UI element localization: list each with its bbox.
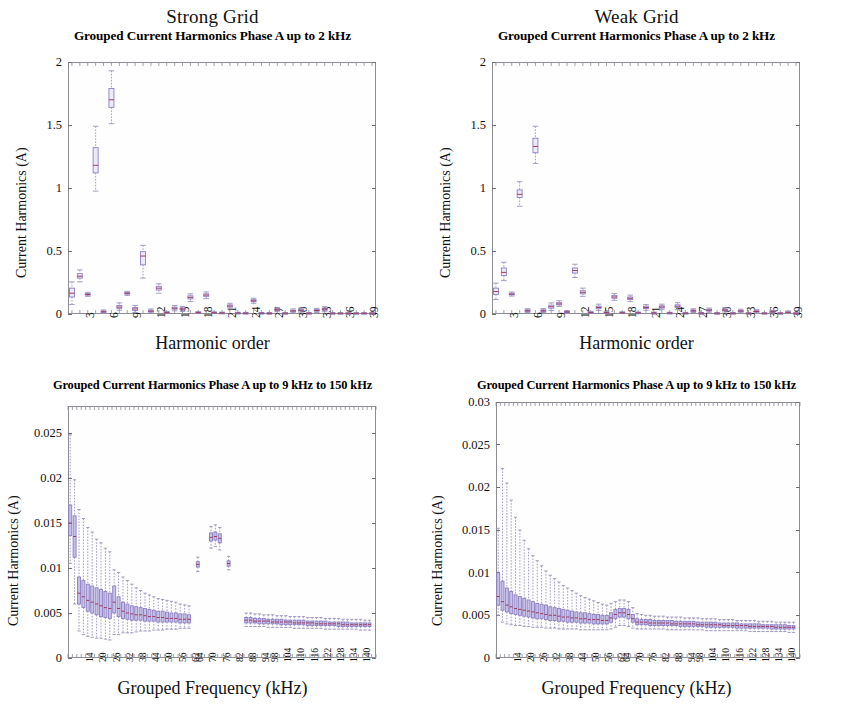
box-plot-item (363, 620, 366, 630)
box-plot-item (592, 601, 595, 630)
box-plot-item (572, 264, 578, 277)
box-plot-item (562, 585, 565, 629)
box-plot-item (180, 306, 186, 311)
box-plot-item (770, 310, 776, 313)
box-plot-item (596, 304, 602, 310)
box-plot-item (275, 307, 281, 311)
box-plot-item (657, 616, 660, 629)
box-plot-item (284, 616, 287, 628)
box-plot-item (740, 620, 743, 630)
box-plot-item (99, 543, 102, 638)
box-plot-item (361, 313, 367, 314)
box-plot-item (766, 621, 769, 631)
box-plot-item (314, 308, 320, 312)
box-plot-item (148, 595, 151, 631)
box-plot-item (553, 579, 556, 628)
box-plot-item (337, 618, 340, 629)
box-plot-item (346, 619, 349, 629)
box-plot-item (354, 313, 360, 314)
box-plot-item (245, 613, 248, 627)
box-plot-item (718, 620, 721, 631)
box-plot-item (183, 605, 186, 628)
box-plot-item (290, 309, 296, 313)
box-plot-item (501, 262, 507, 280)
box-plot-item (341, 619, 344, 629)
box-plot-item (541, 308, 547, 312)
box-plot-item (783, 622, 786, 631)
box-plot-item (635, 614, 638, 629)
box-plot-item (785, 311, 791, 314)
box-plot-item (556, 301, 562, 307)
box-plot-item (709, 619, 712, 631)
box-plot-item (631, 608, 634, 628)
box-plot-item (85, 292, 91, 296)
box-plot-item (104, 548, 107, 639)
box-plot-item (211, 312, 217, 314)
box-plot-item (757, 621, 760, 631)
box-plot-item (253, 614, 256, 627)
box-plot-item (746, 313, 752, 314)
box-plot-item (258, 614, 261, 627)
box-plot-item (714, 619, 717, 631)
box-plot-item (218, 528, 221, 551)
box-plot-item (510, 500, 513, 625)
box-plot-item (774, 622, 777, 631)
box-plot-item (156, 284, 162, 293)
box-plot-item (368, 620, 371, 630)
box-plot-item (675, 617, 678, 630)
box-plot-item (117, 303, 123, 310)
box-plot-item (644, 615, 647, 629)
box-plot-item (101, 310, 107, 313)
box-plot-item (271, 615, 274, 628)
column-title-strong-grid: Strong Grid (0, 6, 425, 28)
box-plot-item (251, 298, 257, 303)
box-plot-item (350, 619, 353, 629)
box-plot-item (289, 617, 292, 628)
box-plot-item (501, 469, 504, 623)
box-plot-item (596, 603, 599, 630)
box-plot-item (640, 614, 643, 629)
box-plot-item (609, 603, 612, 629)
box-plot-item (675, 303, 681, 310)
box-plot-item (604, 312, 610, 314)
box-plot-item (792, 622, 795, 632)
box-plot-item (696, 618, 699, 630)
box-plot-item (525, 309, 531, 313)
box-plot-item (505, 483, 508, 624)
box-plot-item (620, 312, 626, 314)
box-plot-item (152, 597, 155, 630)
box-plot-item (580, 288, 586, 296)
box-plot-item (108, 552, 111, 640)
box-plot-item (140, 245, 146, 278)
box-plot-item (243, 312, 249, 314)
box-plot-item (322, 307, 328, 312)
box-plot-item (172, 305, 178, 310)
box-plot-item (338, 313, 344, 314)
box-plot-item (262, 615, 265, 627)
box-plot-item (132, 305, 138, 312)
box-plot-item (109, 71, 115, 124)
box-plot-item (691, 309, 697, 313)
box-plot-item (666, 617, 669, 630)
harmonics-figure: Strong Grid Weak Grid Grouped Current Ha… (0, 0, 849, 716)
box-plot-item (588, 599, 591, 630)
box-plot-item (527, 549, 530, 627)
box-plot-item (622, 600, 625, 626)
box-plot-item (196, 312, 202, 314)
box-plot-item (779, 622, 782, 631)
box-plot-item (93, 126, 99, 191)
column-title-weak-grid: Weak Grid (424, 6, 849, 28)
box-plot-item (557, 582, 560, 629)
box-plot-item (302, 617, 305, 629)
box-plot-item (164, 311, 170, 313)
box-plot-item (91, 532, 94, 637)
box-plot-item (778, 313, 784, 314)
box-plot-item (121, 577, 124, 633)
box-plot-item (311, 618, 314, 629)
box-plot-item (653, 616, 656, 629)
panel-strong-grid-low-frequency: Grouped Current Harmonics Phase A up to … (0, 28, 425, 373)
box-plot-item (157, 599, 160, 631)
box-plot-item (770, 621, 773, 631)
box-plot-item (319, 618, 322, 629)
box-plot-item (69, 435, 72, 564)
